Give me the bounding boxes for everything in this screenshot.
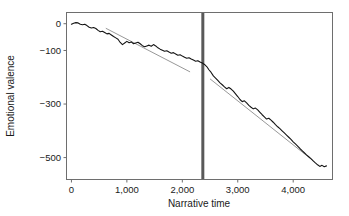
x-tick-label: 2,000 [170,184,194,195]
x-tick-label: 1,000 [115,184,139,195]
x-axis-title: Narrative time [168,198,231,209]
y-tick-label: −500 [40,152,61,163]
emotional-valence-line-chart: 0−100−300−500 01,0002,0003,0004,000 Narr… [0,0,349,216]
y-tick-label: 0 [56,18,61,29]
y-tick-label: −100 [40,45,61,56]
x-tick-label: 4,000 [281,184,305,195]
y-axis-title: Emotional valence [5,55,16,137]
y-tick-label: −300 [40,98,61,109]
x-tick-label: 0 [69,184,74,195]
chart-figure: 0−100−300−500 01,0002,0003,0004,000 Narr… [0,0,349,216]
x-tick-label: 3,000 [226,184,250,195]
plot-frame [67,13,333,180]
